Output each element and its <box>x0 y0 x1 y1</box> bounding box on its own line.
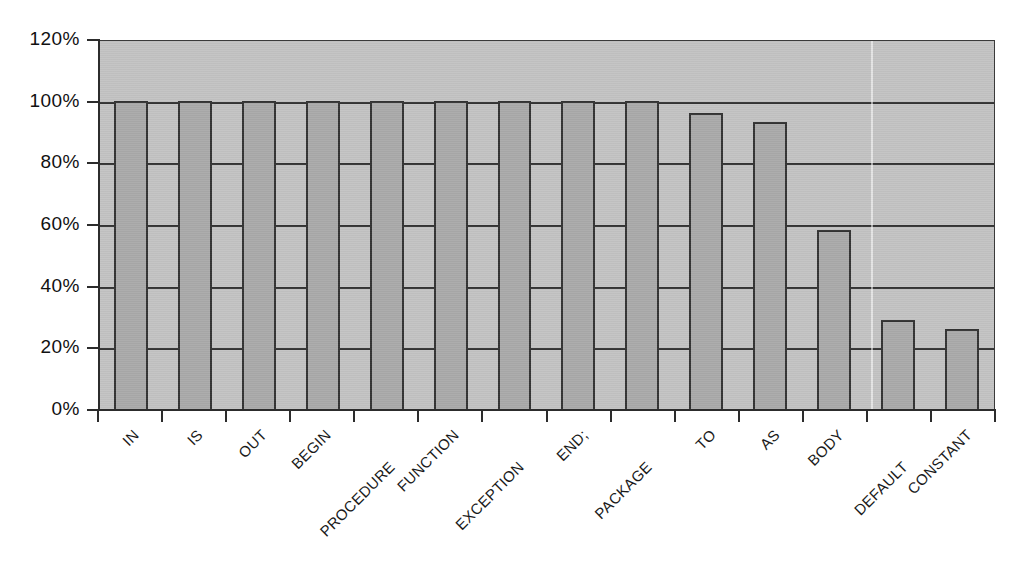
bar-package <box>625 101 659 409</box>
bar-exception <box>498 101 532 409</box>
x-label-cell: OUT <box>226 424 290 574</box>
x-axis-tick-label: BODY <box>804 426 847 469</box>
y-axis-tick-label: 80% <box>0 151 80 173</box>
bar-is <box>178 101 212 409</box>
bar-procedure <box>370 101 404 409</box>
bar-group <box>355 41 419 409</box>
x-tick <box>739 411 803 423</box>
y-axis-tick-label: 100% <box>0 90 80 112</box>
y-axis-tick-label: 20% <box>0 336 80 358</box>
x-tick <box>98 411 162 423</box>
x-axis-tick-label: OUT <box>235 426 270 461</box>
x-axis-labels: INISOUTBEGINPROCEDUREFUNCTIONEXCEPTIONEN… <box>98 424 995 574</box>
x-tick <box>611 411 675 423</box>
x-axis-tick-label: IS <box>184 426 206 448</box>
bar-group <box>483 41 547 409</box>
bar-group <box>674 41 738 409</box>
bar-constant <box>945 329 979 409</box>
bar-group <box>546 41 610 409</box>
x-axis-ticks <box>98 411 995 423</box>
bar-series <box>99 41 994 409</box>
x-tick <box>931 411 995 423</box>
y-axis-tick-label: 0% <box>0 398 80 420</box>
plot-area <box>98 40 995 410</box>
x-label-cell: EXCEPTION <box>482 424 546 574</box>
bar-as <box>753 122 787 409</box>
x-label-cell: PROCEDURE <box>354 424 418 574</box>
bar-out <box>242 101 276 409</box>
x-axis-tick-label: END; <box>552 426 590 464</box>
bar-group <box>419 41 483 409</box>
bar-body <box>817 230 851 409</box>
x-tick <box>162 411 226 423</box>
x-label-cell: IS <box>162 424 226 574</box>
x-axis-tick-label: AS <box>756 426 783 453</box>
bar-group <box>99 41 163 409</box>
x-tick <box>482 411 546 423</box>
y-axis-tick-label: 60% <box>0 213 80 235</box>
x-tick <box>675 411 739 423</box>
x-axis-tick-label: BEGIN <box>288 426 334 472</box>
bar-group <box>291 41 355 409</box>
bar-group <box>227 41 291 409</box>
x-tick <box>354 411 418 423</box>
bar-group <box>163 41 227 409</box>
x-axis-tick-label: IN <box>119 426 142 449</box>
x-tick <box>418 411 482 423</box>
bar-in <box>114 101 148 409</box>
bar-to <box>689 113 723 409</box>
x-label-cell: AS <box>739 424 803 574</box>
x-label-cell: DEFAULT <box>867 424 931 574</box>
y-axis <box>98 40 100 411</box>
y-axis-tick-label: 120% <box>0 28 80 50</box>
x-tick <box>547 411 611 423</box>
x-tick <box>226 411 290 423</box>
x-tick <box>867 411 931 423</box>
x-label-cell: IN <box>98 424 162 574</box>
bar-group <box>610 41 674 409</box>
bar-group <box>930 41 994 409</box>
x-axis-tick-label: TO <box>692 426 719 453</box>
bar-begin <box>306 101 340 409</box>
x-tick <box>803 411 867 423</box>
bar-group <box>802 41 866 409</box>
y-axis-tick-label: 40% <box>0 275 80 297</box>
x-label-cell: PACKAGE <box>611 424 675 574</box>
bar-group <box>866 41 930 409</box>
x-label-cell: CONSTANT <box>931 424 995 574</box>
bar-chart: 0%20%40%60%80%100%120% INISOUTBEGINPROCE… <box>0 0 1020 578</box>
bar-end <box>561 101 595 409</box>
x-label-cell: TO <box>675 424 739 574</box>
bar-group <box>738 41 802 409</box>
bar-default <box>881 320 915 409</box>
bar-function <box>434 101 468 409</box>
x-tick <box>290 411 354 423</box>
